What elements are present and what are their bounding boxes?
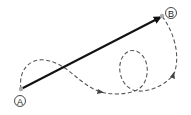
dashed-path (21, 16, 177, 94)
diagram-canvas: A B (0, 0, 191, 115)
label-b: B (166, 8, 177, 19)
svg-text:B: B (168, 9, 174, 19)
point-a-dot (19, 87, 23, 91)
path-arrowhead-icon (97, 89, 104, 94)
label-a: A (15, 96, 26, 107)
point-b-dot (160, 14, 164, 18)
svg-text:A: A (17, 97, 23, 107)
